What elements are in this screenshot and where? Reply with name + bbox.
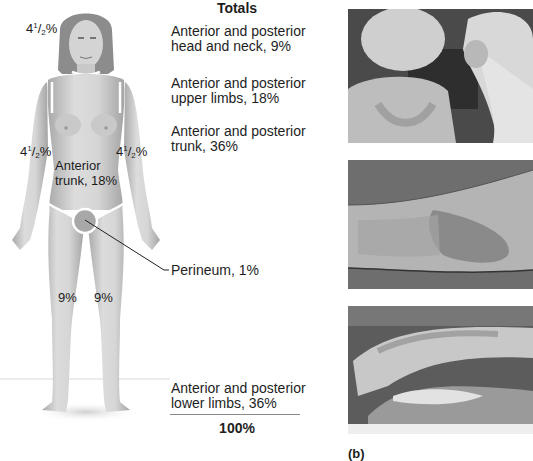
severe-burn-limbs-photo [348, 306, 533, 434]
totals-row-head-neck: Anterior and posterior head and neck, 9% [171, 24, 306, 54]
left-leg-percentage-label: 9% [58, 290, 77, 305]
anterior-trunk-label: Anterior trunk, 18% [55, 158, 117, 188]
left-arm-percentage-label: 41/2% [20, 141, 51, 163]
burned-forearm-photo [348, 160, 533, 289]
perineum-label: Perineum, 1% [171, 263, 259, 278]
sunburned-back-photo [348, 9, 533, 143]
body-diagram [0, 0, 170, 425]
totals-divider [170, 414, 300, 415]
head-percentage-label: 41/2% [26, 18, 57, 40]
panel-label-b: (b) [348, 446, 365, 461]
totals-row-lower-limbs: Anterior and posterior lower limbs, 36% [171, 381, 306, 411]
right-arm-percentage-label: 41/2% [116, 141, 147, 163]
totals-sum: 100% [172, 420, 302, 436]
totals-row-upper-limbs: Anterior and posterior upper limbs, 18% [171, 76, 306, 106]
totals-heading: Totals [172, 0, 302, 16]
right-leg-percentage-label: 9% [94, 290, 113, 305]
totals-row-trunk: Anterior and posterior trunk, 36% [171, 124, 306, 154]
